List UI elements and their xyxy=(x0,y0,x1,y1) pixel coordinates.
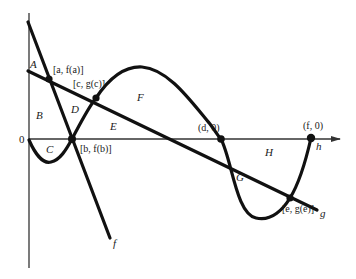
region-label-b: B xyxy=(36,109,43,121)
region-label-g: G xyxy=(236,171,244,183)
point-d-marker xyxy=(217,135,225,143)
region-label-f: F xyxy=(136,91,144,103)
point-label-d: (d, 0) xyxy=(198,122,220,134)
point-c-marker xyxy=(92,94,99,101)
line-f xyxy=(28,22,110,238)
point-label-a: [a, f(a)] xyxy=(53,64,84,76)
region-label-e: E xyxy=(109,120,117,132)
curve-label-g: g xyxy=(320,207,326,219)
point-label-f: (f, 0) xyxy=(303,120,323,132)
curve-label-f: f xyxy=(113,237,118,249)
point-label-c: [c, g(c)] xyxy=(73,78,105,90)
region-label-c: C xyxy=(46,143,54,155)
point-b-marker xyxy=(68,135,76,143)
point-label-e: [e, g(e)] xyxy=(282,203,314,215)
point-f-marker xyxy=(307,134,315,142)
point-label-b: [b, f(b)] xyxy=(80,143,112,155)
point-e-marker xyxy=(286,194,293,201)
curve-label-h: h xyxy=(316,140,322,152)
region-label-h: H xyxy=(264,146,274,158)
origin-label: 0 xyxy=(19,133,25,145)
area-diagram: 0 f g h [a, f(a)] [c, g(c)] [b, f(b)] (d… xyxy=(0,0,356,279)
region-label-a: A xyxy=(29,58,37,70)
region-label-d: D xyxy=(70,103,79,115)
point-a-marker xyxy=(45,75,52,82)
